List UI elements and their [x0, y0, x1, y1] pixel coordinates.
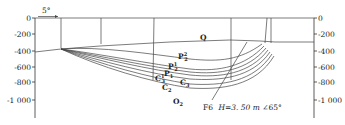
right-tick-800: -800 [318, 78, 335, 87]
layer-label-c3: C3 [180, 78, 190, 88]
fault-f6-line [212, 42, 247, 100]
layer-label-p2-2: P22 [178, 51, 188, 62]
fault-name: F6 [203, 103, 213, 112]
left-tick-600: -600 [14, 63, 31, 72]
geological-cross-section: 0 -200 -400 -600 -800 -1 000 0 -200 -400… [0, 0, 345, 125]
fault-dip: ∠65° [262, 103, 282, 112]
right-depth-axis: 0 -200 -400 -600 -800 -1 000 [314, 14, 342, 119]
fault-throw: H=3. 50 m [217, 103, 259, 112]
dip-label: 5° [42, 6, 51, 15]
layer-label-o2: O2 [173, 97, 184, 107]
left-tick-400: -400 [14, 47, 31, 56]
left-tick-200: -200 [14, 30, 31, 39]
dip-indicator: 5° [38, 6, 58, 18]
right-tick-1000: -1 000 [318, 96, 342, 105]
right-tick-0: 0 [318, 14, 323, 23]
left-tick-800: -800 [14, 78, 31, 87]
left-tick-0: 0 [26, 14, 31, 23]
fault-annotation: F6 H=3. 50 m ∠65° [203, 103, 282, 112]
quaternary-base-line [35, 40, 314, 52]
layer-label-q: Q [200, 33, 207, 42]
right-tick-400: -400 [318, 47, 335, 56]
right-tick-600: -600 [318, 63, 335, 72]
left-tick-1000: -1 000 [7, 96, 31, 105]
right-tick-200: -200 [318, 30, 335, 39]
left-depth-axis: 0 -200 -400 -600 -800 -1 000 [7, 14, 35, 119]
